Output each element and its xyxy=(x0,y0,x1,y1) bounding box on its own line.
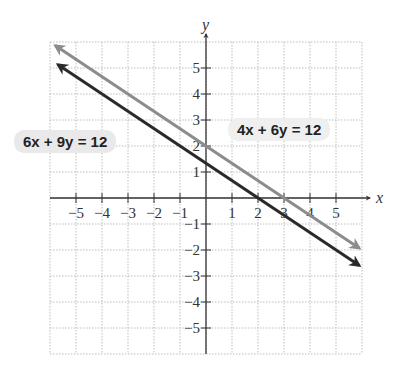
series-line-1 xyxy=(58,65,360,266)
y-tick-label: 5 xyxy=(193,60,201,76)
x-axis-label: x xyxy=(375,189,383,206)
y-tick-label: −4 xyxy=(184,294,200,310)
label-4x-6y-12: 4x + 6y = 12 xyxy=(228,118,330,141)
y-tick-label: 3 xyxy=(193,112,201,128)
y-tick-label: −1 xyxy=(184,216,200,232)
x-tick-label: 5 xyxy=(332,205,340,221)
y-tick-label: 1 xyxy=(193,164,201,180)
x-tick-label: −4 xyxy=(94,205,110,221)
x-tick-label: 2 xyxy=(254,205,262,221)
label-6x-9y-12: 6x + 9y = 12 xyxy=(14,130,116,153)
y-tick-label: −5 xyxy=(184,320,200,336)
y-tick-label: 4 xyxy=(193,86,201,102)
x-tick-label: −3 xyxy=(120,205,136,221)
y-tick-label: −2 xyxy=(184,242,200,258)
chart: xy−5−4−3−2−112345−5−4−3−2−112345 xyxy=(0,0,401,377)
x-tick-label: −5 xyxy=(68,205,84,221)
x-tick-label: 1 xyxy=(228,205,236,221)
x-tick-label: −2 xyxy=(146,205,162,221)
y-tick-label: −3 xyxy=(184,268,200,284)
y-axis-label: y xyxy=(200,16,210,34)
